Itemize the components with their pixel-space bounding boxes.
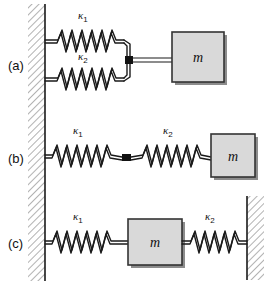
row-a-mass: m	[172, 32, 227, 85]
row-a-spring-1-label: κ1	[78, 9, 88, 24]
row-a-spring-2-label: κ2	[78, 50, 88, 65]
row-b-spring-2-label: κ2	[163, 124, 173, 139]
row-c-spring-2-label: κ2	[205, 210, 215, 225]
row-c-spring-kappa1: κ1	[45, 210, 128, 253]
row-a-rod	[132, 58, 172, 62]
row-a-connector-square	[125, 56, 133, 64]
row-a-spring-kappa2: κ2	[45, 50, 124, 90]
left-wall	[28, 4, 45, 281]
spring-mass-figure: (a) κ1 κ2 m	[0, 0, 270, 290]
row-b-label: (b)	[8, 151, 24, 166]
row-c-label: (c)	[8, 236, 23, 251]
row-c-spring-kappa2: κ2	[182, 210, 247, 253]
row-b-mass-label: m	[228, 149, 238, 164]
row-c-mass: m	[128, 219, 185, 268]
row-a-connector-bar	[124, 40, 133, 81]
row-c-mass-label: m	[150, 235, 160, 250]
row-a-mass-label: m	[193, 50, 203, 65]
row-b-connector-square	[122, 154, 131, 161]
row-c-spring-1-label: κ1	[73, 210, 83, 225]
row-b-spring-1-label: κ1	[73, 124, 83, 139]
row-a-spring-kappa1: κ1	[45, 9, 124, 52]
row-b-mass: m	[211, 134, 258, 180]
right-wall	[247, 196, 264, 280]
row-a-label: (a)	[8, 58, 24, 73]
row-c: (c) κ1 m κ2	[8, 196, 264, 280]
row-b-spring-kappa1: κ1	[45, 124, 122, 167]
row-b-spring-kappa2: κ2	[131, 124, 211, 167]
